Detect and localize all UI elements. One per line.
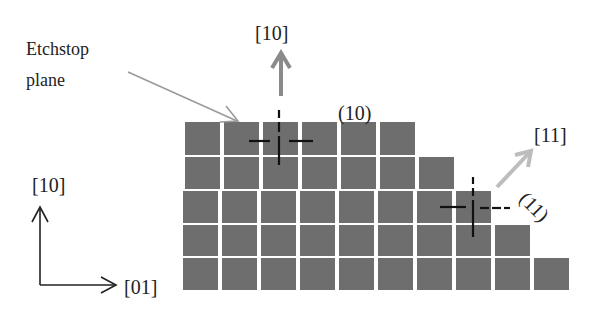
lattice-diagram: Etchstop plane [10] (10) [11] (11) [10] (0, 0, 601, 311)
direction-top-label: [10] (255, 22, 288, 44)
direction-top-arrow (272, 53, 290, 96)
lattice-atom (378, 258, 413, 290)
lattice-atom (222, 191, 257, 223)
axis-x-label: [01] (124, 276, 157, 298)
lattice-atom (261, 191, 296, 223)
lattice-atom (495, 225, 530, 256)
direction-diag-label: [11] (534, 124, 567, 146)
lattice-atom (300, 258, 335, 290)
etchstop-label-line1: Etchstop (26, 39, 89, 59)
lattice-atom (341, 122, 376, 155)
lattice-atom (339, 191, 374, 223)
lattice-atom (224, 157, 259, 189)
lattice-atom (302, 122, 337, 155)
lattice-atom (300, 225, 335, 256)
lattice-atom (417, 258, 452, 290)
direction-diag-arrow (497, 151, 531, 187)
lattice-atom (183, 191, 218, 223)
lattice-atom (417, 225, 452, 256)
lattice-atom (339, 258, 374, 290)
lattice-atom (495, 258, 530, 290)
lattice-atom (263, 122, 298, 155)
lattice-atom (456, 258, 491, 290)
lattice-atom (378, 225, 413, 256)
etchstop-pointer-arrow (128, 72, 238, 122)
axis-arrows (32, 207, 116, 293)
lattice-grid (183, 122, 569, 290)
lattice-atom (419, 157, 454, 189)
lattice-atom (341, 157, 376, 189)
lattice-atom (300, 191, 335, 223)
lattice-atom (378, 191, 413, 223)
lattice-atom (183, 258, 218, 290)
etchstop-label-line2: plane (26, 70, 65, 90)
axis-y-label: [10] (32, 174, 65, 196)
lattice-atom (261, 225, 296, 256)
lattice-atom (534, 258, 569, 290)
lattice-atom (380, 122, 415, 155)
lattice-atom (222, 258, 257, 290)
lattice-atom (302, 157, 337, 189)
plane-diag-label: (11) (514, 187, 553, 226)
lattice-atom (185, 157, 220, 189)
plane-top-label: (10) (338, 102, 371, 125)
lattice-atom (263, 157, 298, 189)
lattice-atom (380, 157, 415, 189)
lattice-atom (224, 122, 259, 155)
lattice-atom (183, 225, 218, 256)
lattice-atom (222, 225, 257, 256)
lattice-atom (185, 122, 220, 155)
lattice-atom (339, 225, 374, 256)
lattice-atom (261, 258, 296, 290)
